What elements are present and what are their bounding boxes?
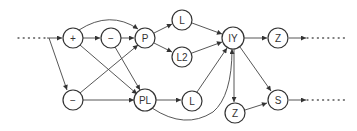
node-minus-bottom: − xyxy=(63,90,83,110)
node-label: L2 xyxy=(176,52,188,63)
node-label: Z xyxy=(232,108,238,119)
edge-l-top-iy xyxy=(192,23,222,34)
node-label: S xyxy=(275,95,282,106)
node-minus-top: − xyxy=(101,28,121,48)
edge-p-l-top xyxy=(154,24,172,33)
edge-l-bottom-iy xyxy=(197,48,227,92)
edge-l2-iy xyxy=(192,42,222,53)
node-iy: IY xyxy=(222,27,244,49)
node-plus: + xyxy=(63,28,83,48)
edge-p-l2 xyxy=(154,43,172,52)
node-l-bottom: L xyxy=(182,91,202,111)
node-label: L xyxy=(189,96,195,107)
node-label: − xyxy=(108,33,114,44)
state-graph-diagram: + − P L L2 IY Z − PL L Z S xyxy=(0,0,357,131)
node-p: P xyxy=(135,28,155,48)
edges xyxy=(47,20,306,120)
node-s: S xyxy=(268,90,288,110)
node-l2: L2 xyxy=(172,47,192,67)
node-label: + xyxy=(70,33,76,44)
edge-z-bottom-s xyxy=(245,103,267,110)
node-pl: PL xyxy=(134,89,156,111)
node-label: L xyxy=(179,15,185,26)
edge-input-minus-bottom xyxy=(49,38,67,90)
node-label: − xyxy=(70,95,76,106)
node-z-top: Z xyxy=(268,28,288,48)
node-label: PL xyxy=(139,95,152,106)
node-l-top: L xyxy=(172,10,192,30)
node-label: P xyxy=(142,33,149,44)
node-label: IY xyxy=(228,33,238,44)
node-label: Z xyxy=(275,33,281,44)
edge-iy-s xyxy=(240,47,271,91)
node-z-bottom: Z xyxy=(225,103,245,123)
